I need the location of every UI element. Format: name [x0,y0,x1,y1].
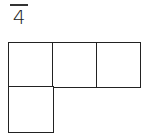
grid-cell-r0-c0 [8,42,54,88]
grid-cell-r0-c2 [96,42,141,88]
grid-cell-r1-c0 [8,86,54,133]
fraction-label: 1 4 [9,0,29,28]
grid-cell-r0-c1 [52,42,98,88]
fraction-denominator: 4 [9,6,29,28]
